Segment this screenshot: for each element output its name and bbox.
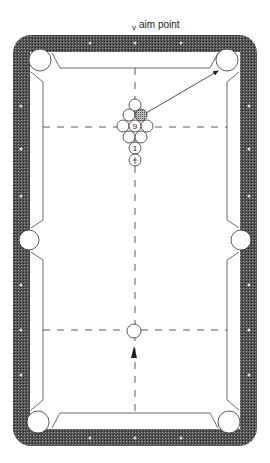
ball-rack-r3-right	[141, 120, 153, 132]
ball-target-hatched	[135, 109, 147, 121]
ball-rack-r2-left	[123, 109, 135, 121]
ball-nine-label: 9	[133, 122, 138, 131]
ball-one-label: 1	[133, 144, 138, 153]
pocket-bottom-right	[218, 411, 240, 433]
pocket-bottom-left	[27, 411, 49, 433]
pool-table-diagram: 9 1	[0, 0, 270, 463]
ball-rack-r4-right	[135, 131, 147, 143]
pocket-side-left	[19, 230, 39, 250]
pocket-top-right	[216, 49, 238, 71]
ball-rack-r3-left	[117, 120, 129, 132]
ball-rack-r4-left	[123, 131, 135, 143]
cue-ball	[127, 324, 141, 338]
pocket-top-left	[29, 49, 51, 71]
pocket-side-right	[231, 230, 251, 250]
